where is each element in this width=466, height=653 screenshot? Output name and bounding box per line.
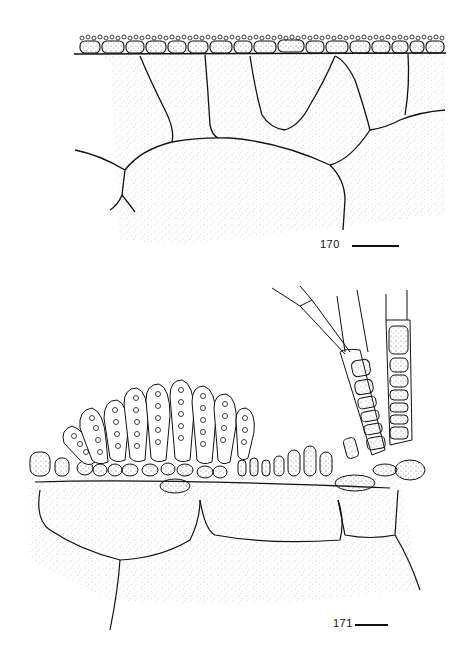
surface-granules [80, 35, 444, 40]
cortical-cells [80, 40, 444, 53]
figure-170: 170 [0, 0, 466, 270]
figure-171-drawing [0, 270, 466, 653]
figure-171-scale-bar [355, 624, 388, 626]
figure-171: 171 [0, 270, 466, 653]
figure-171-number: 171 [333, 617, 353, 629]
sporangia-cluster [63, 380, 254, 465]
figure-170-drawing [0, 0, 466, 270]
figure-170-scale-bar [352, 245, 399, 247]
figure-170-number: 170 [320, 238, 340, 250]
